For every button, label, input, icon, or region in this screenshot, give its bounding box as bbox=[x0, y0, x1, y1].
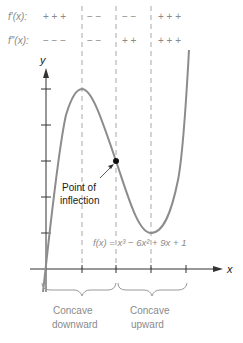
x-axis-label: x bbox=[226, 263, 233, 275]
f-prime-label: f′(x): bbox=[8, 11, 27, 22]
f-double-prime-seg-4: + + + bbox=[158, 35, 181, 46]
function-label: f(x) = x³ − 6x² + 9x + 1 bbox=[93, 237, 186, 248]
sign-chart: f′(x): + + + − − − − + + + f″(x): − − − … bbox=[8, 11, 181, 46]
f-double-prime-label: f″(x): bbox=[8, 35, 29, 46]
brace-concave-down bbox=[42, 283, 116, 296]
f-prime-seg-3: − − bbox=[122, 11, 137, 22]
arrowhead-icon bbox=[108, 164, 114, 169]
f-prime-seg-1: + + + bbox=[43, 11, 66, 22]
interval-2-line1: Concave bbox=[130, 305, 170, 316]
annotation-line2: inflection bbox=[60, 195, 99, 206]
inflection-point bbox=[113, 158, 119, 164]
interval-2-line2: upward bbox=[131, 319, 164, 330]
interval-1-line2: downward bbox=[52, 319, 98, 330]
x-axis-arrow-icon bbox=[213, 266, 223, 272]
f-prime-seg-2: − − bbox=[87, 11, 102, 22]
brace-concave-up bbox=[118, 283, 187, 296]
axes bbox=[30, 76, 215, 292]
f-double-prime-seg-3: + + bbox=[122, 35, 137, 46]
annotation-line1: Point of bbox=[62, 182, 96, 193]
f-double-prime-seg-2: − − bbox=[87, 35, 102, 46]
f-prime-seg-4: + + + bbox=[158, 11, 181, 22]
interval-1-line1: Concave bbox=[53, 305, 93, 316]
f-double-prime-seg-1: − − − bbox=[43, 35, 66, 46]
y-axis-arrow-icon bbox=[43, 68, 49, 78]
concavity-diagram: f′(x): + + + − − − − + + + f″(x): − − − … bbox=[0, 0, 243, 343]
y-axis-label: y bbox=[39, 54, 47, 66]
